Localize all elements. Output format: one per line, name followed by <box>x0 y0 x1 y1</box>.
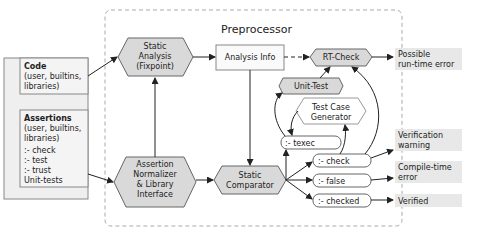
assertions-title: Assertions <box>24 114 72 123</box>
assertion-normalizer-l4: Interface <box>137 190 173 199</box>
test-case-generator-l2: Generator <box>311 113 352 122</box>
verification-warning-l1: Verification <box>398 131 443 140</box>
assertion-item-trust: :- trust <box>24 166 51 175</box>
runtime-error-l1: Possible <box>398 50 430 59</box>
code-line2: libraries) <box>24 82 59 91</box>
static-comparator-l2: Comparator <box>226 181 274 190</box>
rt-check-label: RT-Check <box>323 53 360 62</box>
verification-warning-l2: warning <box>398 141 430 150</box>
assertions-line2: libraries) <box>24 134 59 143</box>
checked-label: :- checked <box>318 197 359 206</box>
assertion-item-test: :- test <box>24 156 48 165</box>
analysis-info-label: Analysis Info <box>225 53 276 62</box>
assertion-item-check: :- check <box>24 146 56 155</box>
static-analysis-l3: (Fixpoint) <box>136 62 174 71</box>
static-analysis-l1: Static <box>144 42 167 51</box>
preprocessor-title: Preprocessor <box>221 23 292 36</box>
assertion-normalizer-l3: & Library <box>137 180 174 189</box>
false-label: :- false <box>318 177 345 186</box>
verified-label: Verified <box>398 197 428 206</box>
static-analysis-l2: Analysis <box>139 52 172 61</box>
compile-error-l1: Compile-time <box>398 163 452 172</box>
code-line1: (user, builtins, <box>24 72 81 81</box>
unit-test-label: Unit-Test <box>294 82 328 91</box>
code-title: Code <box>24 62 47 71</box>
compile-error-l2: error <box>398 173 418 182</box>
test-case-generator-l1: Test Case <box>311 103 350 112</box>
assertion-item-unit-tests: Unit-tests <box>24 176 63 185</box>
runtime-error-l2: run-time error <box>398 60 455 69</box>
static-comparator-l1: Static <box>239 171 262 180</box>
texec-label: :- texec <box>285 139 315 148</box>
assertion-normalizer-l1: Assertion <box>136 160 173 169</box>
check-label: :- check <box>318 157 350 166</box>
assertion-normalizer-l2: Normalizer <box>133 170 177 179</box>
assertions-line1: (user, builtins, <box>24 124 81 133</box>
